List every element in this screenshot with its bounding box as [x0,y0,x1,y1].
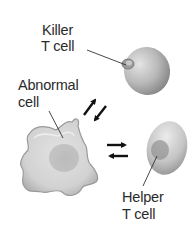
helper-t-cell-nucleus [151,140,169,160]
diagram-canvas: Killer T cell Abnormal cell Helper T cel… [0,0,195,240]
killer-t-cell [119,42,176,100]
helper-t-cell-label-line2: T cell [122,207,155,222]
helper-t-cell-label-line1: Helper [122,190,164,205]
arrow-pair-abnormal-killer [84,100,106,120]
arrow-pair-abnormal-helper [107,145,128,156]
diagram-illustration [0,0,195,240]
abnormal-cell-nucleus [49,144,79,172]
killer-leader-line [87,50,126,65]
arrow-to-killer-icon [84,100,95,115]
abnormal-cell-label-line1: Abnormal [18,78,78,93]
helper-t-cell [142,117,192,178]
killer-t-cell-label-line1: Killer [42,23,73,38]
arrow-to-abnormal-icon [95,106,106,120]
abnormal-cell-label-line2: cell [18,95,39,110]
killer-t-cell-label-line2: T cell [41,39,74,54]
